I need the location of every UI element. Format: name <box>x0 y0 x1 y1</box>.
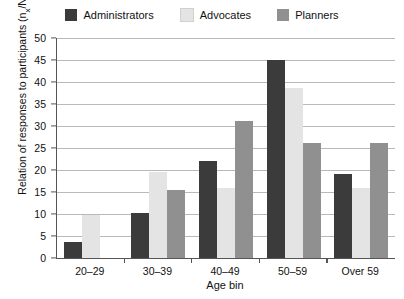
legend-swatch-icon <box>277 9 289 21</box>
legend-swatch-icon <box>180 8 194 22</box>
bar-group <box>327 38 395 258</box>
x-tick-mark <box>326 258 327 263</box>
legend-label: Administrators <box>83 9 153 21</box>
bar-planners-3[interactable] <box>303 143 321 258</box>
y-tick-label: 35 <box>34 99 46 109</box>
y-tick-label: 20 <box>34 165 46 175</box>
bar-group <box>125 38 193 258</box>
bar-group <box>192 38 260 258</box>
x-tick-label: 50–59 <box>278 266 307 277</box>
bar-advocates-2[interactable] <box>217 188 235 258</box>
plot-area <box>56 38 395 259</box>
bar-planners-4[interactable] <box>370 143 388 258</box>
legend-label: Advocates <box>200 9 251 21</box>
bar-planners-2[interactable] <box>235 121 253 258</box>
legend-label: Planners <box>295 9 338 21</box>
y-tick-label: 40 <box>34 77 46 87</box>
bar-advocates-4[interactable] <box>352 188 370 258</box>
y-axis: Relation of responses to participants (n… <box>0 38 56 258</box>
legend-swatch-icon <box>65 9 77 21</box>
y-tick-label: 10 <box>34 209 46 219</box>
bar-advocates-1[interactable] <box>149 172 167 258</box>
x-tick-mark <box>259 258 260 263</box>
x-axis: 20–2930–3940–4950–59Over 59 <box>56 258 394 274</box>
bar-planners-1[interactable] <box>167 190 185 258</box>
bar-advocates-0[interactable] <box>82 215 100 258</box>
legend-item-planners[interactable]: Planners <box>277 9 338 21</box>
bar-administrators-0[interactable] <box>64 242 82 258</box>
y-tick-label: 15 <box>34 187 46 197</box>
legend-item-administrators[interactable]: Administrators <box>65 9 153 21</box>
y-tick-label: 30 <box>34 121 46 131</box>
x-tick-label: Over 59 <box>342 266 379 277</box>
x-tick-label: 40–49 <box>210 266 239 277</box>
bar-administrators-4[interactable] <box>334 174 352 258</box>
y-tick-label: 45 <box>34 55 46 65</box>
bar-group <box>260 38 328 258</box>
x-tick-label: 20–29 <box>75 266 104 277</box>
y-tick-label: 0 <box>40 253 46 263</box>
legend-item-advocates[interactable]: Advocates <box>180 8 251 22</box>
y-tick-label: 25 <box>34 143 46 153</box>
x-tick-mark <box>191 258 192 263</box>
y-tick-label: 5 <box>40 231 46 241</box>
x-tick-label: 30–39 <box>143 266 172 277</box>
chart-legend: AdministratorsAdvocatesPlanners <box>0 6 404 24</box>
bar-administrators-1[interactable] <box>131 213 149 258</box>
bar-advocates-3[interactable] <box>285 88 303 258</box>
y-axis-label: Relation of responses to participants (n… <box>16 0 31 196</box>
y-tick-label: 50 <box>34 33 46 43</box>
bars-layer <box>57 38 395 258</box>
bar-administrators-3[interactable] <box>267 60 285 258</box>
x-tick-mark <box>124 258 125 263</box>
bar-group <box>57 38 125 258</box>
bar-administrators-2[interactable] <box>199 161 217 258</box>
x-axis-label: Age bin <box>56 279 394 291</box>
bar-chart: AdministratorsAdvocatesPlanners Relation… <box>0 0 404 299</box>
